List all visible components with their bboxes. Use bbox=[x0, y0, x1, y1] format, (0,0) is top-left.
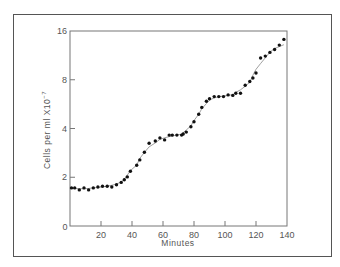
data-point bbox=[282, 38, 285, 41]
data-point bbox=[143, 151, 146, 154]
data-point bbox=[78, 188, 81, 191]
data-point bbox=[268, 51, 271, 54]
plot-axes bbox=[70, 31, 287, 226]
data-point bbox=[158, 136, 161, 139]
y-axis-title: Cells per ml X10−7 bbox=[41, 91, 52, 169]
smoothed-curve bbox=[72, 45, 284, 189]
data-point bbox=[239, 92, 242, 95]
data-point bbox=[87, 188, 90, 191]
data-point bbox=[154, 139, 157, 142]
data-point bbox=[138, 158, 141, 161]
data-point bbox=[101, 185, 104, 188]
data-point bbox=[254, 71, 257, 74]
data-point bbox=[70, 186, 73, 189]
data-point bbox=[200, 106, 203, 109]
data-point bbox=[175, 133, 178, 136]
data-point bbox=[147, 142, 150, 145]
y-tick-label: 4 bbox=[62, 124, 67, 134]
data-point bbox=[244, 84, 247, 87]
x-tick-label: 0 bbox=[62, 222, 67, 232]
data-point bbox=[171, 133, 174, 136]
data-point bbox=[251, 76, 254, 79]
data-point bbox=[96, 185, 99, 188]
data-point bbox=[192, 120, 195, 123]
data-point bbox=[231, 94, 234, 97]
data-point bbox=[213, 95, 216, 98]
data-point bbox=[182, 132, 185, 135]
data-point bbox=[82, 186, 85, 189]
y-tick-label: 16 bbox=[57, 26, 67, 36]
data-point bbox=[208, 97, 211, 100]
data-point bbox=[185, 130, 188, 133]
growth-curve-chart: 02040608010012014024816 Minutes Cells pe… bbox=[0, 0, 340, 267]
y-tick-label: 2 bbox=[62, 172, 67, 182]
data-point bbox=[197, 113, 200, 116]
data-point bbox=[129, 170, 132, 173]
x-tick-label: 40 bbox=[127, 230, 137, 240]
data-point bbox=[135, 164, 138, 167]
data-points bbox=[70, 38, 286, 192]
data-point bbox=[106, 185, 109, 188]
data-point bbox=[189, 125, 192, 128]
smoothed-curve-path bbox=[72, 45, 284, 189]
data-point bbox=[217, 95, 220, 98]
data-point bbox=[92, 186, 95, 189]
data-point bbox=[248, 80, 251, 83]
x-tick-label: 140 bbox=[279, 230, 294, 240]
data-point bbox=[163, 138, 166, 141]
x-tick-label: 20 bbox=[96, 230, 106, 240]
data-point bbox=[126, 175, 129, 178]
tick-labels: 02040608010012014024816 bbox=[57, 26, 295, 240]
data-point bbox=[273, 48, 276, 51]
data-point bbox=[168, 133, 171, 136]
data-point bbox=[123, 178, 126, 181]
data-point bbox=[278, 43, 281, 46]
x-axis-title: Minutes bbox=[161, 238, 194, 248]
x-tick-label: 100 bbox=[217, 230, 232, 240]
data-point bbox=[120, 181, 123, 184]
data-point bbox=[259, 56, 262, 59]
data-point bbox=[73, 186, 76, 189]
data-point bbox=[226, 93, 229, 96]
data-point bbox=[234, 92, 237, 95]
data-point bbox=[110, 185, 113, 188]
data-point bbox=[222, 95, 225, 98]
x-tick-label: 120 bbox=[248, 230, 263, 240]
data-point bbox=[205, 100, 208, 103]
y-tick-label: 8 bbox=[62, 75, 67, 85]
data-point bbox=[264, 54, 267, 57]
data-point bbox=[115, 183, 118, 186]
plot-box bbox=[70, 31, 287, 226]
